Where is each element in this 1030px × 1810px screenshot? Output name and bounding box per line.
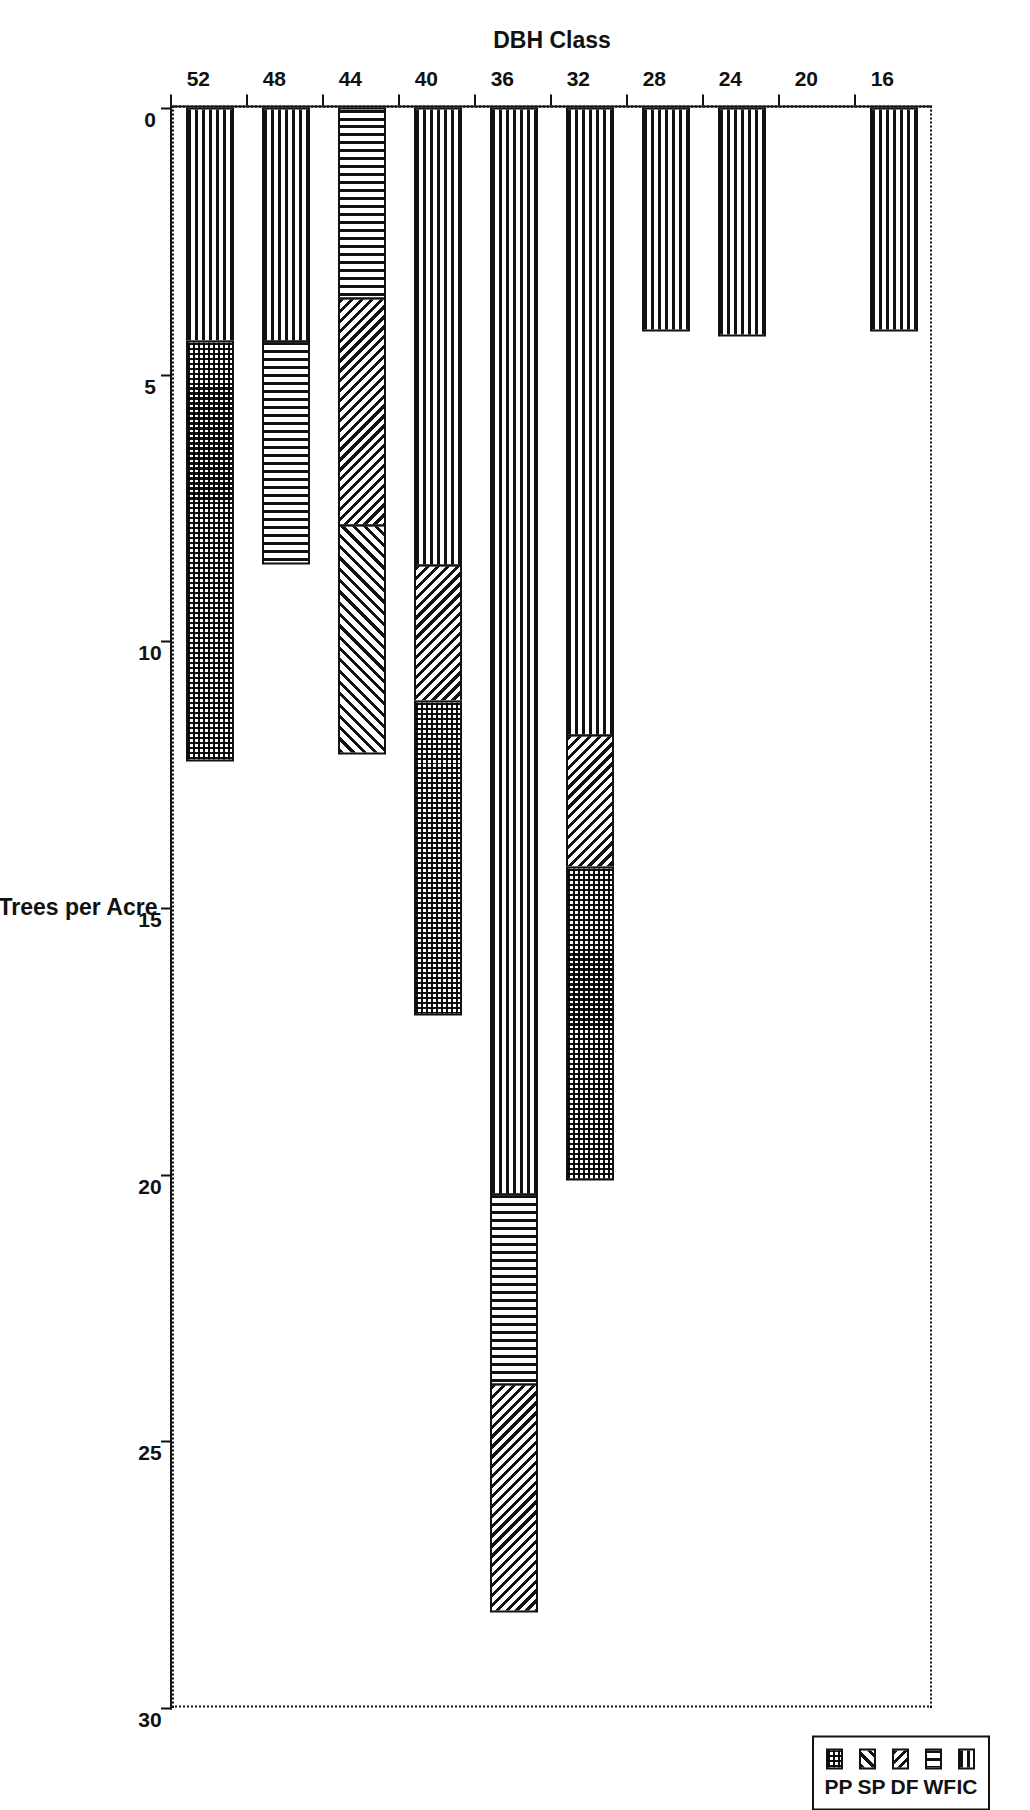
- bar-segment-32-IC[interactable]: [566, 107, 614, 736]
- category-tick-label-48: 48: [263, 66, 286, 90]
- legend-swatch-IC-icon: [959, 1748, 976, 1769]
- category-tick-label-36: 36: [491, 66, 514, 90]
- bar-segment-44-SP[interactable]: [338, 524, 386, 753]
- bar-16[interactable]: [870, 107, 918, 331]
- legend-item-SP[interactable]: SP: [856, 1748, 880, 1797]
- category-tick-28: [626, 94, 628, 105]
- bar-segment-48-WF[interactable]: [262, 340, 310, 564]
- legend-item-PP[interactable]: PP: [823, 1748, 847, 1797]
- legend-label-DF: DF: [891, 1775, 912, 1799]
- category-tick-label-20: 20: [795, 66, 818, 90]
- bar-44[interactable]: [338, 107, 386, 754]
- bar-segment-52-IC[interactable]: [186, 107, 234, 342]
- bar-48[interactable]: [262, 107, 310, 564]
- value-axis-title: Trees per Acre: [0, 894, 157, 921]
- category-axis-title: DBH Class: [493, 27, 611, 54]
- legend-swatch-DF-icon: [893, 1748, 910, 1769]
- bar-52[interactable]: [186, 107, 234, 761]
- bar-40[interactable]: [414, 107, 462, 1015]
- bar-segment-52-PP[interactable]: [186, 340, 234, 761]
- category-tick-52: [170, 94, 172, 105]
- bar-28[interactable]: [642, 107, 690, 331]
- bar-24[interactable]: [718, 107, 766, 336]
- legend-label-PP: PP: [825, 1775, 846, 1799]
- legend-swatch-WF-icon: [926, 1748, 943, 1769]
- category-tick-40: [398, 94, 400, 105]
- bar-segment-24-IC[interactable]: [718, 107, 766, 336]
- legend-swatch-SP-icon: [860, 1748, 877, 1769]
- bar-segment-44-DF[interactable]: [338, 297, 386, 526]
- value-tick-30: [161, 1707, 172, 1709]
- legend-item-WF[interactable]: WF: [922, 1748, 946, 1797]
- category-tick-36: [474, 94, 476, 105]
- legend-item-DF[interactable]: DF: [889, 1748, 913, 1797]
- bar-32[interactable]: [566, 107, 614, 1180]
- category-tick-32: [550, 94, 552, 105]
- value-tick-20: [161, 1174, 172, 1176]
- category-tick-label-16: 16: [871, 66, 894, 90]
- category-tick-label-52: 52: [187, 66, 210, 90]
- category-tick-label-24: 24: [719, 66, 742, 90]
- bar-segment-36-DF[interactable]: [490, 1383, 538, 1612]
- legend-swatch-PP-icon: [827, 1748, 844, 1769]
- value-tick-label-30: 30: [138, 1707, 161, 1731]
- value-tick-label-25: 25: [138, 1440, 161, 1464]
- category-tick-label-32: 32: [567, 66, 590, 90]
- bar-segment-32-PP[interactable]: [566, 866, 614, 1181]
- category-tick-16: [854, 94, 856, 105]
- bar-segment-32-DF[interactable]: [566, 734, 614, 867]
- category-tick-label-28: 28: [643, 66, 666, 90]
- legend-label-WF: WF: [924, 1775, 945, 1799]
- legend-item-IC[interactable]: IC: [955, 1748, 979, 1797]
- bar-segment-40-DF[interactable]: [414, 564, 462, 703]
- value-tick-label-10: 10: [138, 640, 161, 664]
- category-tick-24: [702, 94, 704, 105]
- value-tick-label-5: 5: [144, 374, 156, 398]
- bar-36[interactable]: [490, 107, 538, 1612]
- bar-segment-48-IC[interactable]: [262, 107, 310, 342]
- bar-series-container: [172, 107, 932, 1707]
- category-tick-label-40: 40: [415, 66, 438, 90]
- bar-segment-16-IC[interactable]: [870, 107, 918, 331]
- bar-segment-28-IC[interactable]: [642, 107, 690, 331]
- value-tick-10: [161, 640, 172, 642]
- category-tick-label-44: 44: [339, 66, 362, 90]
- value-tick-5: [161, 374, 172, 376]
- value-tick-15: [161, 907, 172, 909]
- legend-label-IC: IC: [957, 1775, 978, 1799]
- legend-label-SP: SP: [858, 1775, 879, 1799]
- value-tick-label-0: 0: [144, 107, 156, 131]
- bar-segment-36-WF[interactable]: [490, 1193, 538, 1385]
- bar-segment-44-WF[interactable]: [338, 107, 386, 299]
- category-tick-20: [778, 94, 780, 105]
- value-tick-label-20: 20: [138, 1174, 161, 1198]
- category-tick-48: [246, 94, 248, 105]
- bar-segment-40-PP[interactable]: [414, 700, 462, 1015]
- value-tick-0: [161, 107, 172, 109]
- value-tick-25: [161, 1440, 172, 1442]
- bar-segment-36-IC[interactable]: [490, 107, 538, 1195]
- bar-segment-40-IC[interactable]: [414, 107, 462, 566]
- legend: ICWFDFSPPP: [812, 1735, 990, 1810]
- category-tick-44: [322, 94, 324, 105]
